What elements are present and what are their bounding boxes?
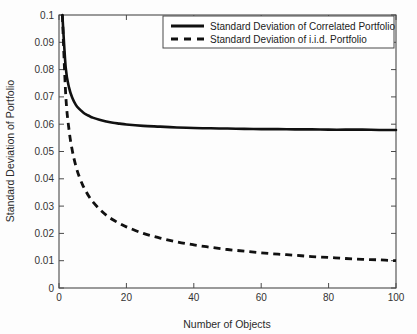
y-tick-label: 0 (48, 283, 54, 294)
data-series-group (62, 15, 396, 261)
x-tick-label: 80 (323, 292, 335, 303)
x-axis-tick-labels: 020406080100 (56, 292, 405, 303)
y-axis-title: Standard Deviation of Portfolio (4, 80, 16, 223)
y-tick-label: 0.1 (40, 10, 54, 21)
x-tick-label: 100 (388, 292, 405, 303)
y-tick-label: 0.01 (35, 255, 55, 266)
x-tick-label: 0 (56, 292, 62, 303)
y-tick-label: 0.06 (35, 119, 55, 130)
x-tick-label: 60 (256, 292, 268, 303)
y-tick-label: 0.05 (35, 146, 55, 157)
y-tick-label: 0.07 (35, 91, 55, 102)
y-tick-label: 0.04 (35, 173, 55, 184)
y-tick-label: 0.09 (35, 37, 55, 48)
y-tick-label: 0.08 (35, 64, 55, 75)
legend-label-iid: Standard Deviation of i.i.d. Portfolio (210, 34, 367, 45)
plot-canvas: 020406080100 00.010.020.030.040.050.060.… (0, 0, 417, 334)
legend-label-correlated: Standard Deviation of Correlated Portfol… (210, 21, 396, 32)
x-tick-label: 40 (188, 292, 200, 303)
y-tick-label: 0.02 (35, 228, 55, 239)
y-axis-tick-labels: 00.010.020.030.040.050.060.070.080.090.1 (35, 10, 55, 294)
x-axis-ticks (59, 15, 396, 288)
legend: Standard Deviation of Correlated Portfol… (163, 16, 396, 48)
x-tick-label: 20 (121, 292, 133, 303)
series-iid-portfolio-line (62, 15, 396, 261)
y-tick-label: 0.03 (35, 201, 55, 212)
chart-figure: 020406080100 00.010.020.030.040.050.060.… (0, 0, 417, 334)
axes-frame (59, 15, 396, 288)
y-axis-ticks (59, 15, 396, 288)
x-axis-title: Number of Objects (183, 318, 271, 330)
